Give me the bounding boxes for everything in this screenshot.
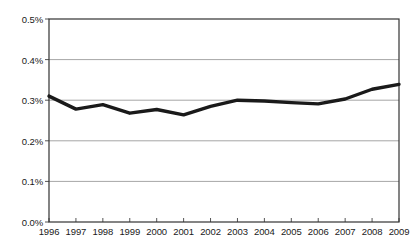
x-axis-tick-label: 1996 bbox=[39, 226, 60, 237]
x-axis-tick-label: 1999 bbox=[119, 226, 140, 237]
y-axis-tick-label: 0.2% bbox=[2, 135, 43, 146]
data-series-line bbox=[49, 84, 399, 114]
y-axis-tick-label: 0.3% bbox=[2, 95, 43, 106]
x-axis-tick-label: 2006 bbox=[308, 226, 329, 237]
x-axis-tick-label: 2007 bbox=[335, 226, 356, 237]
y-axis-tick-label: 0.5% bbox=[2, 14, 43, 25]
x-axis-tick-label: 2003 bbox=[227, 226, 248, 237]
x-axis-tick-label: 2001 bbox=[173, 226, 194, 237]
x-axis-tick-label: 1997 bbox=[66, 226, 87, 237]
y-axis-tick-label: 0.4% bbox=[2, 54, 43, 65]
x-axis-tick-label: 2004 bbox=[254, 226, 275, 237]
y-axis-tick-label: 0.0% bbox=[2, 217, 43, 228]
x-axis-tick-label: 2008 bbox=[362, 226, 383, 237]
x-axis-tick-label: 2009 bbox=[389, 226, 410, 237]
gridlines-group bbox=[49, 60, 399, 182]
line-chart-canvas bbox=[0, 0, 419, 251]
x-axis-tick-label: 2000 bbox=[146, 226, 167, 237]
x-axis-tick-label: 2002 bbox=[200, 226, 221, 237]
x-axis-tick-label: 1998 bbox=[92, 226, 113, 237]
y-axis-tick-label: 0.1% bbox=[2, 176, 43, 187]
x-axis-tick-label: 2005 bbox=[281, 226, 302, 237]
axis-ticks-group bbox=[45, 19, 399, 222]
chart-container: 0.0%0.1%0.2%0.3%0.4%0.5% 199619971998199… bbox=[0, 0, 419, 251]
plot-area-border bbox=[49, 19, 399, 222]
